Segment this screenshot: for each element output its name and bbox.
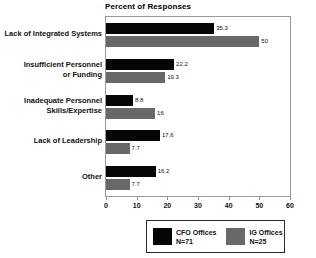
x-tick-mark	[106, 197, 107, 200]
legend-swatch-cfo	[153, 228, 172, 245]
bar-cfo-3	[106, 130, 160, 141]
x-tick-label: 60	[286, 202, 294, 209]
bar-value-label: 17.6	[162, 130, 174, 141]
chart-title: Percent of Responses	[105, 2, 191, 11]
x-tick-mark	[167, 197, 168, 200]
bar-ig-1	[106, 72, 165, 83]
x-tick-mark	[259, 197, 260, 200]
x-tick-label: 0	[104, 202, 108, 209]
x-tick-mark	[290, 197, 291, 200]
category-label-3: Lack of Leadership	[2, 136, 105, 146]
bar-ig-4	[106, 179, 130, 190]
bar-ig-0	[106, 36, 259, 47]
bar-value-label: 7.7	[132, 179, 140, 190]
legend-sample-size: N=25	[249, 237, 282, 246]
legend-text-cfo: CFO OfficesN=71	[176, 228, 216, 246]
legend-swatch-ig	[226, 228, 245, 245]
x-tick-label: 50	[255, 202, 263, 209]
chart-legend: CFO OfficesN=71IG OfficesN=25	[146, 220, 285, 253]
bar-value-label: 7.7	[132, 143, 140, 154]
x-tick-label: 30	[194, 202, 202, 209]
legend-series-name: CFO Offices	[176, 228, 216, 237]
category-label-0: Lack of Integrated Systems	[2, 29, 105, 39]
x-tick-label: 40	[225, 202, 233, 209]
bar-cfo-0	[106, 23, 214, 34]
x-axis: 0102030405060	[105, 197, 291, 217]
x-tick-label: 10	[133, 202, 141, 209]
legend-entry-ig: IG OfficesN=25	[226, 228, 282, 246]
bar-cfo-2	[106, 95, 133, 106]
legend-entry-cfo: CFO OfficesN=71	[153, 228, 216, 246]
bar-value-label: 8.8	[135, 95, 143, 106]
bar-value-label: 50	[261, 36, 268, 47]
bar-value-label: 16.2	[158, 166, 170, 177]
bars-layer: 35.35022.219.38.81617.67.716.27.7	[106, 17, 290, 196]
bar-ig-3	[106, 143, 130, 154]
category-axis-labels: Lack of Integrated SystemsInsufficient P…	[0, 16, 105, 197]
legend-series-name: IG Offices	[249, 228, 282, 237]
x-tick-mark	[198, 197, 199, 200]
x-tick-mark	[229, 197, 230, 200]
x-tick-mark	[137, 197, 138, 200]
bar-value-label: 16	[157, 108, 164, 119]
legend-sample-size: N=71	[176, 237, 216, 246]
bar-ig-2	[106, 108, 155, 119]
category-label-2: Inadequate PersonnelSkills/Expertise	[2, 96, 105, 116]
x-tick-label: 20	[163, 202, 171, 209]
category-label-1: Insufficient Personnelor Funding	[2, 60, 105, 80]
bar-cfo-4	[106, 166, 156, 177]
bar-value-label: 35.3	[216, 23, 228, 34]
bar-value-label: 22.2	[176, 59, 188, 70]
bar-value-label: 19.3	[167, 72, 179, 83]
bar-cfo-1	[106, 59, 174, 70]
bar-chart: Percent of Responses Lack of Integrated …	[0, 0, 316, 258]
category-label-4: Other	[2, 172, 105, 182]
legend-text-ig: IG OfficesN=25	[249, 228, 282, 246]
plot-area: 35.35022.219.38.81617.67.716.27.7	[105, 16, 291, 197]
